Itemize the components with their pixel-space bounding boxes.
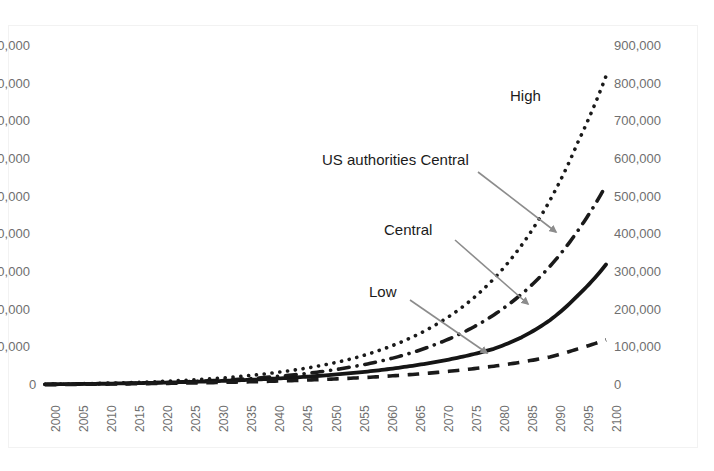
series-us-authorities-central	[45, 185, 606, 384]
annotation-label-us-authorities-central: US authorities Central	[322, 152, 469, 168]
series-layer	[0, 0, 714, 471]
annotation-label-central: Central	[384, 222, 432, 238]
annotation-label-low: Low	[369, 284, 397, 300]
chart-root: 0)0,000)0,000)0,000)0,000)0,000)0,000)0,…	[0, 0, 714, 471]
series-low	[45, 340, 606, 385]
annotation-leader-line	[478, 172, 556, 232]
series-central	[45, 264, 606, 384]
annotation-label-high: High	[510, 88, 541, 104]
